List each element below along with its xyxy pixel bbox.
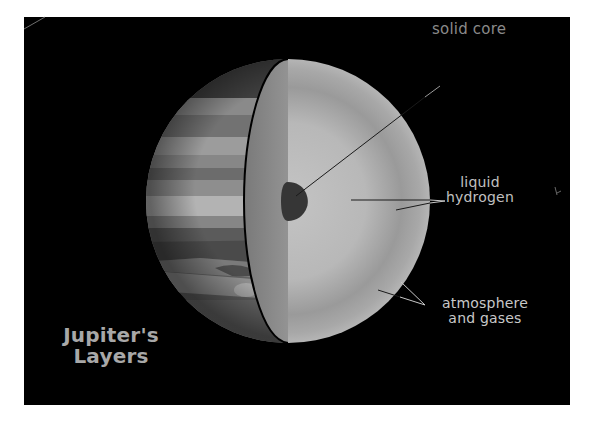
label-atmosphere-line2: and gases	[430, 311, 540, 326]
diagram-title-line1: Jupiter's	[56, 325, 166, 346]
scratch-mark	[24, 17, 45, 29]
label-liquid-hydrogen: liquid hydrogen	[432, 175, 528, 204]
label-solid-core-text: solid core	[432, 20, 506, 38]
label-liquid-hydrogen-line1: liquid	[432, 175, 528, 190]
diagram-title: Jupiter's Layers	[56, 325, 166, 367]
label-atmosphere-line1: atmosphere	[430, 296, 540, 311]
core-leader-line-outer	[425, 86, 440, 97]
label-atmosphere: atmosphere and gases	[430, 296, 540, 325]
planet-interior	[288, 59, 430, 343]
speck-mark	[555, 187, 561, 195]
label-liquid-hydrogen-line2: hydrogen	[432, 190, 528, 205]
diagram-title-line2: Layers	[56, 346, 166, 367]
label-solid-core: solid core	[432, 22, 506, 38]
